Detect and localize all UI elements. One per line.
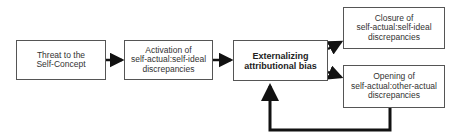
node-closure-label: Closure of self-actual:self-ideal discre…: [356, 14, 431, 43]
node-closure: Closure of self-actual:self-ideal discre…: [343, 7, 445, 49]
node-activation-label: Activation of self-actual:self-ideal dis…: [131, 46, 206, 75]
arrow-externalizing-to-closure: [328, 42, 341, 49]
arrow-externalizing-to-opening: [328, 72, 341, 77]
node-threat: Threat to the Self-Concept: [16, 40, 106, 80]
node-threat-label: Threat to the Self-Concept: [36, 51, 85, 70]
node-activation: Activation of self-actual:self-ideal dis…: [124, 40, 213, 80]
node-externalizing-label: Externalizing attributional bias: [244, 51, 317, 71]
node-opening: Opening of self-actual:other-actual disc…: [343, 65, 445, 108]
node-opening-label: Opening of self-actual:other-actual disc…: [351, 72, 437, 101]
node-externalizing: Externalizing attributional bias: [233, 40, 328, 81]
